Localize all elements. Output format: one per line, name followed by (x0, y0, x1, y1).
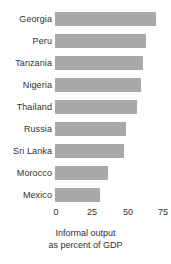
chart-row: Sri Lanka (0, 144, 171, 158)
x-tick-50: 50 (123, 207, 133, 217)
bar-morocco (55, 166, 108, 180)
chart-row: Peru (0, 34, 171, 48)
category-label: Mexico (23, 190, 52, 200)
chart-row: Thailand (0, 100, 171, 114)
caption-line-2: as percent of GDP (0, 239, 171, 251)
chart-row: Nigeria (0, 78, 171, 92)
category-label: Russia (24, 124, 52, 134)
x-tick-25: 25 (87, 207, 97, 217)
chart-row: Tanzania (0, 56, 171, 70)
bar-chart: Georgia Peru Tanzania Nigeria Thailand R… (0, 0, 171, 264)
x-axis-caption: Informal output as percent of GDP (0, 227, 171, 251)
chart-row: Russia (0, 122, 171, 136)
chart-row: Morocco (0, 166, 171, 180)
bar-sri-lanka (55, 144, 124, 158)
chart-row: Mexico (0, 188, 171, 202)
x-tick-75: 75 (158, 207, 168, 217)
category-label: Georgia (19, 14, 52, 24)
plot-area: Georgia Peru Tanzania Nigeria Thailand R… (0, 0, 171, 205)
bar-georgia (55, 12, 156, 26)
category-label: Nigeria (23, 80, 52, 90)
bar-tanzania (55, 56, 143, 70)
category-label: Peru (33, 36, 52, 46)
bar-thailand (55, 100, 137, 114)
bar-nigeria (55, 78, 141, 92)
category-label: Thailand (17, 102, 52, 112)
category-label: Tanzania (15, 58, 52, 68)
bar-mexico (55, 188, 100, 202)
caption-line-1: Informal output (0, 227, 171, 239)
x-tick-0: 0 (53, 207, 58, 217)
chart-row: Georgia (0, 12, 171, 26)
category-label: Morocco (17, 168, 52, 178)
bar-russia (55, 122, 126, 136)
category-label: Sri Lanka (13, 146, 52, 156)
bar-peru (55, 34, 146, 48)
x-axis: 0 25 50 75 (0, 205, 171, 223)
